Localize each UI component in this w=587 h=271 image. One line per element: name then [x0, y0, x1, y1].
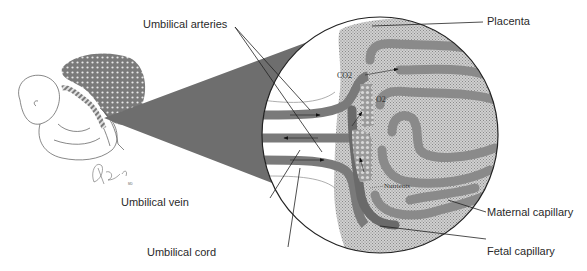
fetus-illustration	[19, 53, 146, 160]
label-maternal-capillary: Maternal capillary	[487, 207, 573, 218]
placenta-diagram: MD	[0, 0, 587, 271]
svg-text:MD: MD	[128, 182, 133, 186]
label-umbilical-arteries: Umbilical arteries	[143, 19, 227, 30]
label-umbilical-vein: Umbilical vein	[121, 197, 189, 208]
label-nutrients: Nutrients	[384, 183, 410, 190]
magnified-view	[262, 17, 500, 260]
artist-signature: MD	[93, 164, 134, 186]
label-placenta: Placenta	[487, 16, 530, 27]
label-fetal-capillary: Fetal capillary	[487, 246, 555, 257]
label-umbilical-cord: Umbilical cord	[147, 247, 216, 258]
label-o2: O2	[376, 96, 386, 104]
label-co2: CO2	[337, 72, 352, 80]
exchange-zone-upper	[360, 84, 374, 128]
